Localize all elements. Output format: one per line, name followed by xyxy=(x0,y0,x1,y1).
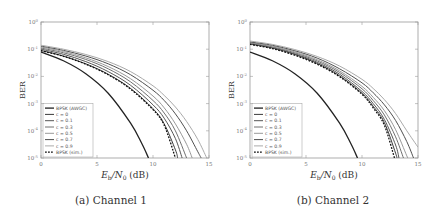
ber-chart-channel-2: 10010-110-210-310-410-5051015Eb/N0 (dB)B… xyxy=(222,0,444,190)
legend-entry: c = 0 xyxy=(56,112,68,117)
x-axis-label: Eb/N0 (dB) xyxy=(100,170,148,181)
y-axis-label: BER xyxy=(227,80,236,99)
legend-entry: c = 0.7 xyxy=(56,137,73,142)
x-tick-label: 0 xyxy=(39,161,43,167)
legend-entry: BPSK (sim.) xyxy=(265,150,292,155)
x-tick-label: 0 xyxy=(248,161,252,167)
y-tick-label: 10-1 xyxy=(236,45,247,53)
legend-entry: c = 0.7 xyxy=(265,137,282,142)
y-tick-label: 10-3 xyxy=(27,99,38,107)
x-tick-label: 5 xyxy=(95,161,99,167)
y-tick-label: 10-2 xyxy=(236,72,247,80)
x-tick-label: 10 xyxy=(150,161,157,167)
legend-entry: c = 0.5 xyxy=(56,131,73,136)
legend-entry: BPSK (AWGC) xyxy=(265,106,296,111)
x-axis-label: Eb/N0 (dB) xyxy=(309,170,357,181)
caption-channel-1: (a) Channel 1 xyxy=(0,194,222,206)
legend-entry: c = 0.5 xyxy=(265,131,282,136)
y-tick-label: 10-5 xyxy=(236,154,247,162)
y-tick-label: 10-3 xyxy=(236,99,247,107)
y-tick-label: 10-4 xyxy=(236,126,247,134)
chart-panel-channel-2: 10010-110-210-310-410-5051015Eb/N0 (dB)B… xyxy=(222,0,444,218)
chart-panel-channel-1: 10010-110-210-310-410-5051015Eb/N0 (dB)B… xyxy=(0,0,222,218)
y-tick-label: 10-1 xyxy=(27,45,38,53)
y-tick-label: 100 xyxy=(29,18,39,26)
y-tick-label: 10-5 xyxy=(27,154,38,162)
x-tick-label: 5 xyxy=(304,161,308,167)
legend-entry: c = 0.3 xyxy=(56,125,73,130)
legend-entry: c = 0.1 xyxy=(265,118,282,123)
x-tick-label: 15 xyxy=(415,161,422,167)
legend-entry: BPSK (sim.) xyxy=(56,150,83,155)
legend-entry: BPSK (AWGC) xyxy=(56,106,87,111)
legend-entry: c = 0 xyxy=(265,112,277,117)
x-tick-label: 15 xyxy=(206,161,213,167)
caption-channel-2: (b) Channel 2 xyxy=(222,194,444,206)
y-tick-label: 10-4 xyxy=(27,126,38,134)
legend-entry: c = 0.1 xyxy=(56,118,73,123)
y-tick-label: 100 xyxy=(238,18,248,26)
legend-entry: c = 0.3 xyxy=(265,125,282,130)
y-tick-label: 10-2 xyxy=(27,72,38,80)
legend-entry: c = 0.9 xyxy=(56,144,73,149)
x-tick-label: 10 xyxy=(359,161,366,167)
y-axis-label: BER xyxy=(18,80,27,99)
legend-entry: c = 0.9 xyxy=(265,144,282,149)
ber-chart-channel-1: 10010-110-210-310-410-5051015Eb/N0 (dB)B… xyxy=(0,0,222,190)
